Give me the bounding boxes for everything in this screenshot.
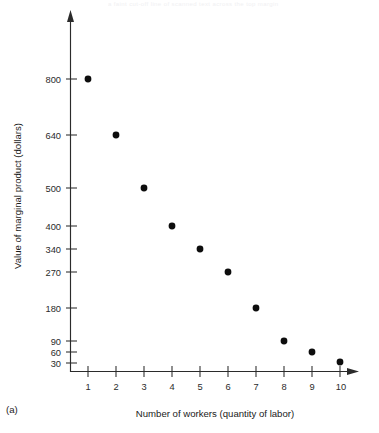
scatter-plot-canvas: 800 640 500 400 340 270 180 90 60 30 1 <box>0 0 379 433</box>
y-axis-title: Value of marginal product (dollars) <box>12 123 23 269</box>
x-tick-labels: 1 2 3 4 5 6 7 8 9 10 <box>85 382 346 392</box>
x-tick-label: 10 <box>336 382 346 392</box>
data-point-series <box>85 76 344 366</box>
x-tick-label: 3 <box>141 382 146 392</box>
x-tick-label: 6 <box>225 382 230 392</box>
data-point <box>169 223 176 230</box>
y-tick-label: 400 <box>45 222 61 232</box>
data-point <box>225 269 232 276</box>
y-tick-marks <box>66 79 77 363</box>
data-point <box>85 76 92 83</box>
y-tick-labels: 800 640 500 400 340 270 180 90 60 30 <box>45 75 61 369</box>
x-axis-arrow-icon <box>347 368 359 375</box>
data-point <box>337 359 344 366</box>
y-tick-label: 90 <box>51 337 61 347</box>
y-tick-label: 640 <box>45 131 61 141</box>
x-tick-label: 7 <box>253 382 258 392</box>
y-tick-label: 30 <box>51 359 61 369</box>
data-point <box>281 338 288 345</box>
x-tick-label: 9 <box>309 382 314 392</box>
data-point <box>309 349 316 356</box>
y-tick-label: 340 <box>45 245 61 255</box>
y-axis <box>67 10 74 372</box>
data-point <box>253 305 260 312</box>
panel-label: (a) <box>6 404 18 415</box>
x-axis-title: Number of workers (quantity of labor) <box>136 408 294 419</box>
data-point <box>197 246 204 253</box>
y-axis-arrow-icon <box>67 10 74 22</box>
scan-artifact-text: a faint cut-off line of scanned text acr… <box>108 1 370 8</box>
data-point <box>141 185 148 192</box>
x-tick-label: 1 <box>85 382 90 392</box>
y-tick-label: 500 <box>45 184 61 194</box>
data-point <box>113 132 120 139</box>
chart-figure: a faint cut-off line of scanned text acr… <box>0 0 379 433</box>
x-tick-label: 8 <box>281 382 286 392</box>
x-axis <box>71 368 360 375</box>
y-tick-label: 800 <box>45 75 61 85</box>
x-tick-label: 4 <box>169 382 174 392</box>
y-tick-label: 270 <box>45 268 61 278</box>
x-tick-label: 5 <box>197 382 202 392</box>
x-tick-label: 2 <box>113 382 118 392</box>
y-tick-label: 180 <box>45 304 61 314</box>
y-tick-label: 60 <box>51 348 61 358</box>
